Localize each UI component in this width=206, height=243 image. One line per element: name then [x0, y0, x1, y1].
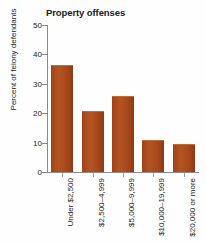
x-tick-mark: [62, 173, 63, 177]
y-tick-mark: [42, 143, 47, 144]
y-tick-mark: [42, 54, 47, 55]
chart-title: Property offenses: [46, 7, 125, 18]
x-tick-label: $2,500–4,999: [97, 178, 106, 227]
x-tick-mark: [153, 173, 154, 177]
bar: [82, 111, 104, 172]
y-tick-label: 20: [12, 109, 42, 118]
y-tick-mark: [42, 84, 47, 85]
x-tick-label: $10,000–19,999: [157, 178, 166, 236]
bar: [51, 65, 73, 172]
x-tick-mark: [93, 173, 94, 177]
y-tick-label: 30: [12, 79, 42, 88]
y-tick-mark: [42, 25, 47, 26]
y-tick-label: 10: [12, 138, 42, 147]
y-axis-tick-labels: 01020304050: [8, 0, 42, 243]
y-tick-mark: [42, 113, 47, 114]
y-tick-label: 50: [12, 21, 42, 30]
x-tick-label: $20,000 or more: [188, 178, 197, 237]
plot-area: [47, 25, 199, 172]
bar: [112, 96, 134, 172]
x-tick-label: $5,000–9,999: [127, 178, 136, 227]
bar: [173, 144, 195, 172]
x-tick-mark: [184, 173, 185, 177]
chart-container: Property offenses Percent of felony defe…: [0, 0, 206, 243]
y-tick-mark: [42, 172, 47, 173]
x-tick-label: Under $2,500: [66, 178, 75, 226]
bar: [142, 140, 164, 172]
x-axis-line: [41, 172, 199, 173]
x-tick-mark: [123, 173, 124, 177]
y-tick-label: 0: [12, 168, 42, 177]
y-tick-label: 40: [12, 50, 42, 59]
